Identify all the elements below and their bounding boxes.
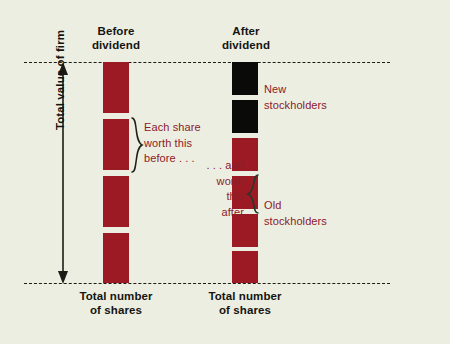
bar-segment [103, 176, 129, 227]
figure-canvas: Total value of firm Before dividend Afte… [0, 0, 450, 344]
bar-segment [232, 251, 258, 283]
column-title-after: After dividend [196, 24, 296, 52]
brace-before-share [130, 117, 144, 173]
brace-after-share [246, 174, 260, 214]
axis-label-total-value: Total value of firm [54, 0, 66, 180]
column-caption-after: Total number of shares [189, 289, 301, 317]
bar-segment [103, 233, 129, 283]
label-old-stockholders: Old stockholders [264, 198, 370, 229]
bar-segment [232, 62, 258, 95]
column-title-before: Before dividend [66, 24, 166, 52]
column-caption-before: Total number of shares [60, 289, 172, 317]
annotation-after-share: . . . and worth this after [196, 158, 244, 220]
bar-segment [103, 119, 129, 170]
bar-segment [232, 100, 258, 133]
bottom-reference-line [24, 283, 390, 284]
bar-segment [103, 62, 129, 113]
label-new-stockholders: New stockholders [264, 82, 370, 113]
top-reference-line [24, 62, 390, 63]
